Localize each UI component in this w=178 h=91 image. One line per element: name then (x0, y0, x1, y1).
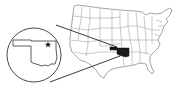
map-figure: Map of the United States highlighting Ok… (0, 0, 178, 91)
us-map (70, 5, 172, 78)
us-map-svg (0, 0, 178, 91)
